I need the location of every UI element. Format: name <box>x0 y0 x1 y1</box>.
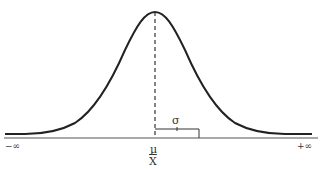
normal-distribution-diagram <box>0 0 325 170</box>
positive-infinity-label: +∞ <box>297 142 312 151</box>
sigma-label: σ <box>172 115 180 126</box>
mean-label: μ <box>150 144 157 155</box>
sigma-bracket <box>155 127 199 138</box>
negative-infinity-label: −∞ <box>5 142 20 151</box>
bell-curve <box>5 12 312 134</box>
sample-mean-label: X <box>149 156 157 167</box>
